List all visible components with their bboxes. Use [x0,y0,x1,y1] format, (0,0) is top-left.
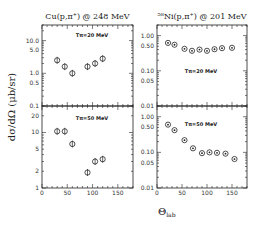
data-point [172,42,177,47]
data-point [70,141,75,148]
panel-title: Cu(p,π⁺) @ 248 MeV [45,12,129,21]
data-point [100,55,105,62]
data-point [189,48,194,53]
y-tick-label: 1 [35,184,39,191]
marker-dot [214,48,216,50]
y-tick-label: 20 [31,112,39,119]
x-tick-label: 100 [87,189,99,196]
plot-frame [157,25,247,106]
marker-dot [191,50,193,52]
marker-dot [174,129,176,131]
y-tick-label: 0.50 [141,42,155,49]
data-point [212,47,217,52]
data-point [172,128,177,133]
y-tick-label: 0.1 [29,102,39,109]
marker-dot [201,152,203,154]
marker-dot [231,47,233,49]
data-point [92,60,97,67]
data-point [223,151,228,156]
plot-frame [157,106,247,188]
y-tick-label: 10 [31,128,39,135]
x-axis-label-main: Θ [158,206,166,217]
panel-bottom-right: 1.000.500.100.050.01050100150Tπ=50 MeV [141,106,247,196]
data-point [207,150,212,155]
data-point [204,48,209,53]
panel-top-left: 10.05.01.00.50.1Cu(p,π⁺) @ 248 MeVTπ=20 … [26,12,133,109]
marker-dot [216,152,218,154]
data-point [92,158,97,165]
marker-dot [225,153,227,155]
y-tick-label: 1.00 [141,32,155,39]
energy-annotation: Tπ=20 MeV [76,32,109,38]
x-axis-label: Θlab [158,206,176,218]
data-point [182,138,187,143]
data-point [199,151,204,156]
data-point [70,70,75,77]
marker-dot [192,147,194,149]
data-point [62,128,67,135]
y-tick-label: 5 [35,145,39,152]
panel-top-right: 1.000.500.100.050.01⁵⁸Ni(p,π⁺) @ 201 MeV… [141,12,247,109]
x-tick-label: 150 [112,189,124,196]
x-tick-label: 0 [155,189,159,196]
panel-bottom-left: 2010521050100150Tπ=50 MeV [31,106,133,196]
marker-dot [184,139,186,141]
data-point [214,150,219,155]
figure: 10.05.01.00.50.1Cu(p,π⁺) @ 248 MeVTπ=20 … [0,0,264,229]
y-tick-label: 0.5 [29,79,39,86]
energy-annotation: Tπ=50 MeV [76,115,109,121]
data-point [229,45,234,50]
y-tick-label: 0.05 [141,159,155,166]
data-point [232,156,237,161]
y-axis-label: dσ/dΩ (μb/sr) [6,73,17,142]
data-point [197,47,202,52]
data-point [55,128,60,135]
y-tick-label: 0.50 [141,123,155,130]
y-tick-label: 0.01 [141,184,155,191]
energy-annotation: Tπ=20 MeV [185,68,218,74]
marker-dot [221,47,223,49]
marker-dot [167,42,169,44]
data-point [219,46,224,51]
x-axis-label-sub: lab [166,211,175,218]
x-tick-label: 100 [201,189,213,196]
data-point [165,122,170,127]
y-tick-label: 2 [35,167,39,174]
marker-dot [199,49,201,51]
data-point [85,63,90,70]
x-tick-label: 50 [63,189,71,196]
y-tick-label: 0.10 [141,148,155,155]
marker-dot [206,50,208,52]
x-tick-label: 50 [178,189,186,196]
marker-dot [174,44,176,46]
y-tick-label: 10.0 [26,37,40,44]
y-tick-label: 0.01 [141,102,155,109]
energy-annotation: Tπ=50 MeV [185,121,218,127]
marker-dot [184,48,186,50]
data-point [85,169,90,176]
data-point [100,156,105,163]
marker-dot [209,151,211,153]
marker-dot [234,158,236,160]
data-point [165,40,170,45]
y-tick-label: 0.10 [141,67,155,74]
y-tick-label: 0.05 [141,77,155,84]
y-tick-label: 1.0 [29,69,39,76]
x-tick-label: 0 [40,189,44,196]
data-point [182,46,187,51]
y-tick-label: 1.00 [141,113,155,120]
data-point [55,57,60,64]
y-tick-label: 5.0 [29,46,39,53]
data-point [190,146,195,151]
panel-title: ⁵⁸Ni(p,π⁺) @ 201 MeV [158,12,247,21]
x-tick-label: 150 [226,189,238,196]
marker-dot [167,124,169,126]
data-point [62,63,67,70]
